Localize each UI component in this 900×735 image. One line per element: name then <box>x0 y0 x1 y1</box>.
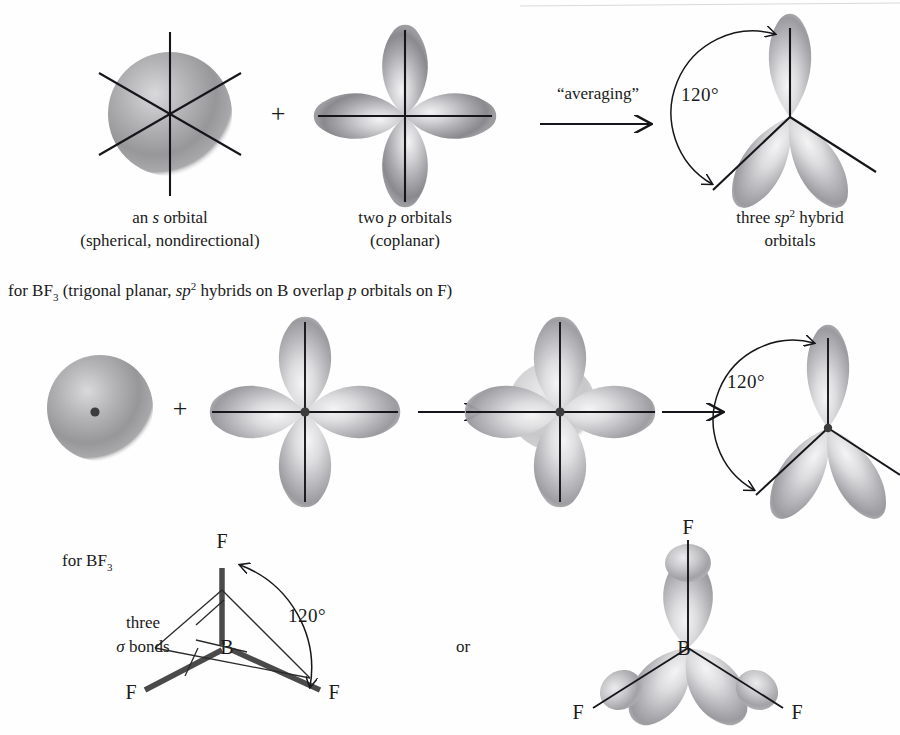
atom-label-f-left: F <box>125 681 136 703</box>
angle-label-row1: 120° <box>681 84 719 105</box>
averaging-label: “averaging” <box>557 84 639 103</box>
row1-captions: an s orbital (spherical, nondirectional)… <box>80 207 844 250</box>
row2-combined-nucleus-dot <box>555 407 564 416</box>
atom-label-f-right: F <box>328 681 339 703</box>
overlap-atom-f-top: F <box>682 516 693 538</box>
sp2-caption-line1: three sp2 hybrid <box>736 207 844 227</box>
bf3-note-line: for BF3 (trigonal planar, sp2 hybrids on… <box>8 280 452 303</box>
overlap-atom-f-left: F <box>572 701 583 723</box>
row2-combined-orbitals <box>465 317 656 508</box>
three-sigma-label-line2: σ bonds <box>116 637 169 656</box>
row2-p-orbitals <box>210 317 401 508</box>
s-orbital-caption-line2: (spherical, nondirectional) <box>80 231 259 250</box>
averaging-arrow-group: “averaging” <box>540 84 650 124</box>
s-orbital-panel <box>99 32 241 196</box>
scan-artifact-line <box>520 3 900 6</box>
angle-label-row2: 120° <box>727 371 765 392</box>
plus-operator-row1: + <box>271 99 286 128</box>
sp2-hybrid-panel: 120° <box>671 14 876 217</box>
bf3-skeletal-diagram: for BF3 F B F F three σ bonds <box>62 530 340 703</box>
p-orbital-caption-line2: (coplanar) <box>370 231 440 250</box>
bf3-skeletal-label: for BF3 <box>62 551 113 573</box>
plus-operator-row2: + <box>173 394 188 423</box>
row2-sp2-nucleus-dot <box>824 424 832 432</box>
row2-p-nucleus-dot <box>300 407 309 416</box>
row2-s-orbital <box>47 355 153 461</box>
s-orbital-caption-line1: an s orbital <box>132 208 208 227</box>
figure-page: + “averaging” <box>0 0 900 735</box>
p-orbitals-panel <box>314 25 497 208</box>
overlap-atom-f-right: F <box>791 701 802 723</box>
row2-sp2-hybrids: 120° <box>713 325 900 528</box>
bond-b-f-left <box>145 650 222 690</box>
orbital-hybridization-figure: + “averaging” <box>0 0 900 735</box>
overlap-atom-b-center: B <box>677 637 690 659</box>
row2-s-sphere <box>47 355 153 461</box>
three-sigma-label-line1: three <box>126 613 160 632</box>
p-orbital-caption-line1: two p orbitals <box>358 208 452 227</box>
sp2-caption-line2: orbitals <box>765 231 816 250</box>
or-label: or <box>456 637 471 656</box>
bf3-orbital-overlap-diagram: F B F F <box>572 516 802 735</box>
row2-nucleus-dot <box>90 407 99 416</box>
bond-b-f-right <box>232 650 320 690</box>
angle-label-row3: 120° <box>288 605 326 626</box>
atom-label-f-top: F <box>216 530 227 552</box>
